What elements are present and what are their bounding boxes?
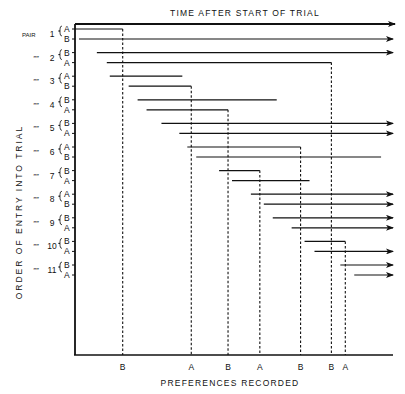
member-label: A [64,142,70,152]
member-label: B [64,48,70,58]
member-label: A [64,58,70,68]
pair-brace [59,238,63,248]
preference-label: A [257,362,263,372]
chart-title: TIME AFTER START OF TRIAL [170,8,320,18]
pair-number: 11 [48,265,57,275]
member-label: B [64,152,70,162]
ditto-mark: ”” [33,148,39,157]
member-label: A [64,105,70,115]
pair-brace [59,191,63,201]
ditto-mark: ”” [33,124,39,133]
member-label: B [64,81,70,91]
member-label: A [64,189,70,199]
member-label: B [64,166,70,176]
pair-brace [59,262,63,272]
ditto-mark: ”” [33,195,39,204]
pair-brace [59,73,63,83]
member-label: B [64,118,70,128]
pair-number: 1 [50,29,55,39]
pair-brace [59,26,63,36]
pair-number: 8 [50,194,55,204]
pair-brace [59,50,63,60]
pair-number: 9 [50,218,55,228]
pair-number: 3 [50,76,55,86]
ditto-mark: ”” [33,54,39,63]
pair-labels: PAIR1AB””2BA””3AB””4BA””5BA””6AB””7BA””8… [22,24,75,280]
pair-number: 4 [50,100,55,110]
pair-brace [59,144,63,154]
member-label: A [64,246,70,256]
ditto-mark: ”” [33,242,39,251]
preference-labels: BABABBA [120,362,349,372]
ditto-mark: ”” [33,101,39,110]
pair-number: 7 [50,171,55,181]
preference-label: B [298,362,304,372]
pair-number: 10 [47,241,57,251]
preference-guides [123,29,346,355]
preference-label: A [188,362,194,372]
preference-label: B [329,362,335,372]
x-axis-label: PREFERENCES RECORDED [161,378,300,388]
member-label: B [64,34,70,44]
preference-label: B [120,362,126,372]
member-label: A [64,270,70,280]
pair-number: 6 [50,147,55,157]
member-label: B [64,260,70,270]
ditto-mark: ”” [33,266,39,275]
member-label: B [64,236,70,246]
trial-timeline-diagram: TIME AFTER START OF TRIAL PREFERENCES RE… [0,0,405,394]
member-label: B [64,199,70,209]
ditto-mark: ”” [33,219,39,228]
pair-brace [59,97,63,107]
pair-number: 2 [50,53,55,63]
pair-brace [59,168,63,178]
y-axis-label: ORDER OF ENTRY INTO TRIAL [14,125,24,300]
ditto-mark: ”” [33,172,39,181]
preference-label: A [342,362,348,372]
pair-number: 5 [50,123,55,133]
member-label: A [64,71,70,81]
pair-prefix: PAIR [22,32,36,38]
member-label: A [64,223,70,233]
member-label: B [64,213,70,223]
pair-brace [59,215,63,225]
member-label: A [64,24,70,34]
member-label: B [64,95,70,105]
member-label: A [64,128,70,138]
member-label: A [64,176,70,186]
ditto-mark: ”” [33,77,39,86]
pair-brace [59,120,63,130]
preference-label: B [225,362,231,372]
